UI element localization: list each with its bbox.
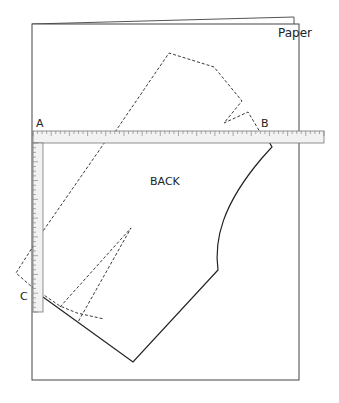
point-c-label: C [20,290,28,303]
back-label: BACK [150,175,180,188]
vertical-ruler [33,143,43,312]
point-a-label: A [36,117,44,130]
horizontal-ruler [33,131,324,143]
point-b-label: B [261,117,269,130]
paper-back-sheet [32,17,294,24]
paper-label: Paper [278,26,312,40]
pattern-diagram [0,0,339,403]
